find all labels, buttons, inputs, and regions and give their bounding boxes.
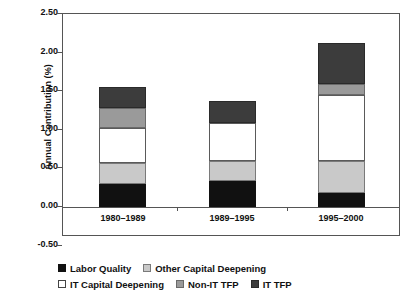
bar-segment-labor — [99, 184, 146, 207]
bar-column — [99, 14, 146, 207]
x-tick-label: 1995–2000 — [286, 213, 396, 223]
y-tick-mark — [57, 245, 62, 246]
bar-segment-nonit — [318, 84, 365, 95]
legend-label: IT Capital Deepening — [70, 279, 164, 290]
plot-area: 1980–19891989–19951995–2000 — [62, 13, 400, 236]
bar-segment-labor — [318, 193, 365, 207]
bar-segment-ittfp — [209, 101, 256, 123]
stacked-bar-chart-figure: Annual Contribution (%) 2.502.001.501.00… — [0, 0, 415, 308]
legend-item[interactable]: IT Capital Deepening — [58, 279, 164, 290]
bar-column — [209, 14, 256, 207]
legend-swatch-icon — [176, 280, 184, 288]
stacked-bar[interactable] — [99, 87, 146, 207]
y-tick-label: 0.50 — [14, 162, 58, 171]
legend-item[interactable]: IT TFP — [251, 279, 292, 290]
y-tick-label: 1.50 — [14, 85, 58, 94]
y-tick-label: 2.00 — [14, 47, 58, 56]
y-tick-label: -0.50 — [14, 240, 58, 249]
stacked-bar[interactable] — [209, 101, 256, 207]
chart-legend: Labor QualityOther Capital Deepening IT … — [58, 260, 378, 292]
bar-segment-ittfp — [99, 87, 146, 109]
bar-segment-labor — [209, 181, 256, 207]
x-tick-label: 1980–1989 — [68, 213, 178, 223]
legend-label: Labor Quality — [70, 263, 131, 274]
x-tick-label: 1989–1995 — [177, 213, 287, 223]
legend-row-1: Labor QualityOther Capital Deepening — [58, 260, 378, 276]
y-tick-label: 2.50 — [14, 8, 58, 17]
y-tick-label: 0.00 — [14, 201, 58, 210]
bar-segment-itcap — [209, 123, 256, 161]
legend-swatch-icon — [58, 264, 66, 272]
y-tick-label: 1.00 — [14, 124, 58, 133]
x-tick-mark — [177, 207, 178, 211]
bar-segment-other — [209, 161, 256, 181]
legend-item[interactable]: Other Capital Deepening — [143, 263, 266, 274]
legend-item[interactable]: Labor Quality — [58, 263, 131, 274]
legend-swatch-icon — [251, 280, 259, 288]
bar-segment-nonit — [99, 108, 146, 128]
bar-segment-other — [318, 161, 365, 193]
bar-segment-itcap — [99, 128, 146, 163]
x-tick-mark — [287, 207, 288, 211]
bar-segment-itcap — [318, 95, 365, 161]
bar-column — [318, 14, 365, 207]
bar-segment-ittfp — [318, 43, 365, 84]
legend-item[interactable]: Non-IT TFP — [176, 279, 239, 290]
stacked-bar[interactable] — [318, 43, 365, 207]
legend-label: Other Capital Deepening — [155, 263, 266, 274]
legend-swatch-icon — [143, 264, 151, 272]
legend-label: IT TFP — [263, 279, 292, 290]
zero-baseline — [63, 207, 399, 208]
legend-swatch-icon — [58, 280, 66, 288]
bar-segment-other — [99, 163, 146, 184]
legend-row-2: IT Capital DeepeningNon-IT TFPIT TFP — [58, 276, 378, 292]
legend-label: Non-IT TFP — [188, 279, 239, 290]
